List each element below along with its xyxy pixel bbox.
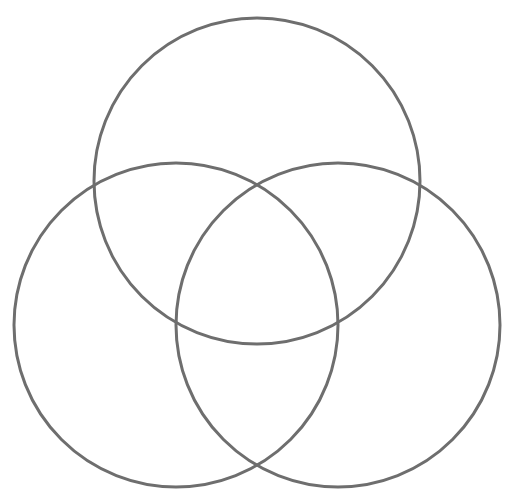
venn-diagram-canvas (0, 0, 511, 502)
venn-diagram (0, 0, 511, 502)
venn-circle-top (94, 18, 420, 344)
